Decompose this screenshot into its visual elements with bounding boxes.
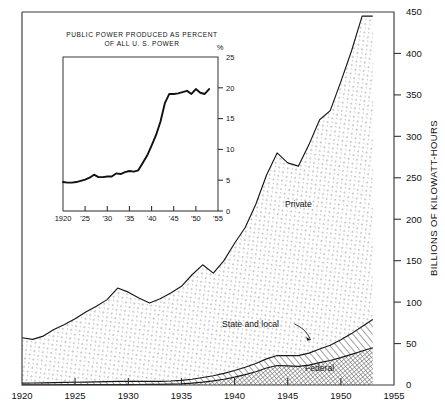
x-tick-label: 1935 bbox=[171, 390, 192, 401]
inset-x-tick-label: '25 bbox=[80, 214, 90, 223]
x-tick-label: 1930 bbox=[118, 390, 139, 401]
y-tick-label: 400 bbox=[406, 48, 422, 59]
inset-x-tick-label: '35 bbox=[125, 214, 135, 223]
chart-svg: 050100150200250300350400450 192019251930… bbox=[0, 0, 445, 408]
annotation-state-and-local: State and local bbox=[222, 319, 279, 329]
y-tick-label: 300 bbox=[406, 131, 422, 142]
inset-x-tick-label: '45 bbox=[169, 214, 179, 223]
chart-figure: 050100150200250300350400450 192019251930… bbox=[0, 0, 445, 408]
annotation-private: Private bbox=[285, 199, 312, 209]
x-tick-label: 1925 bbox=[65, 390, 86, 401]
x-tick-label: 1920 bbox=[11, 390, 32, 401]
y-axis-title: BILLIONS OF KILOWATT-HOURS bbox=[428, 120, 439, 276]
y-tick-label: 350 bbox=[406, 89, 422, 100]
y-tick-label: 100 bbox=[406, 297, 422, 308]
x-tick-label: 1940 bbox=[224, 390, 245, 401]
inset-title-line1: PUBLIC POWER PRODUCED AS PERCENT bbox=[66, 31, 217, 38]
inset-x-tick-label: '55 bbox=[213, 214, 223, 223]
inset-y-tick-label: 10 bbox=[226, 145, 234, 154]
inset-unit-symbol: % bbox=[217, 43, 224, 52]
inset-x-tick-label: '40 bbox=[147, 214, 157, 223]
inset-x-tick-label: '50 bbox=[191, 214, 201, 223]
y-tick-label: 0 bbox=[406, 379, 411, 390]
inset-y-tick-label: 25 bbox=[226, 53, 234, 62]
y-tick-label: 50 bbox=[406, 338, 417, 349]
inset-y-tick-label: 20 bbox=[226, 84, 234, 93]
inset-y-tick-label: 0 bbox=[226, 207, 230, 216]
inset-x-tick-label: '30 bbox=[102, 214, 112, 223]
inset-title-line2: OF ALL U. S. POWER bbox=[104, 40, 179, 47]
y-tick-label: 450 bbox=[406, 6, 422, 17]
x-tick-label: 1955 bbox=[383, 390, 404, 401]
y-tick-label: 250 bbox=[406, 172, 422, 183]
inset-x-tick-label: 1920 bbox=[55, 214, 72, 223]
x-tick-label: 1950 bbox=[330, 390, 351, 401]
x-tick-label: 1945 bbox=[277, 390, 298, 401]
inset-y-tick-label: 15 bbox=[226, 114, 234, 123]
y-tick-label: 150 bbox=[406, 255, 422, 266]
inset-y-tick-label: 5 bbox=[226, 176, 230, 185]
annotation-federal: Federal bbox=[305, 363, 334, 373]
y-tick-label: 200 bbox=[406, 214, 422, 225]
